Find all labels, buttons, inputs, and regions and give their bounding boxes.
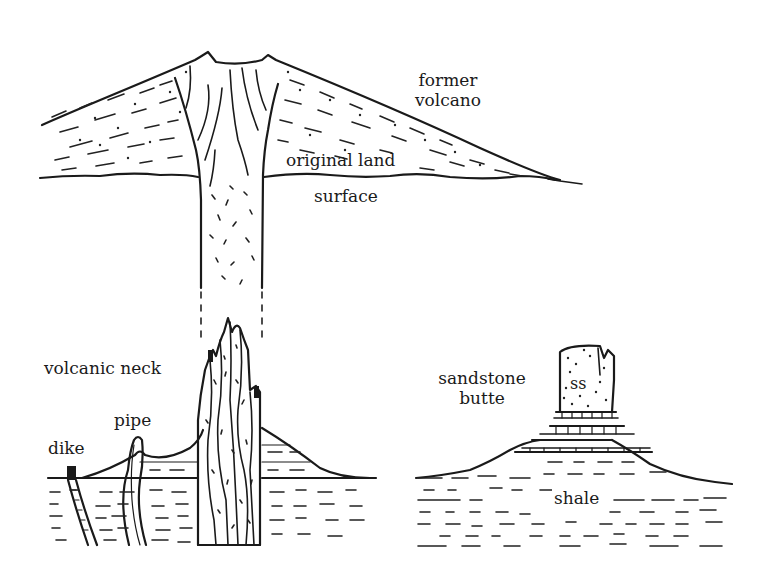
label-sandstone-butte: sandstone butte <box>432 368 532 408</box>
label-sandstone: sandstone <box>432 368 532 388</box>
volcanic-neck-panel <box>48 318 376 545</box>
label-butte: butte <box>432 388 532 408</box>
label-original-land: original land <box>286 150 395 170</box>
label-volcanic-neck: volcanic neck <box>44 358 161 378</box>
label-dike: dike <box>48 438 85 458</box>
label-former-volcano: former volcano <box>408 70 488 110</box>
label-shale: shale <box>552 488 601 508</box>
label-ss: ss <box>570 374 586 394</box>
label-former: former <box>408 70 488 90</box>
cone-ash-layers-left <box>52 71 187 170</box>
label-surface: surface <box>314 186 378 206</box>
label-volcano: volcano <box>408 90 488 110</box>
sandstone-butte-panel <box>416 346 732 484</box>
geology-diagram <box>0 0 767 578</box>
label-pipe: pipe <box>114 410 151 430</box>
neck-fill-speckles <box>210 186 254 284</box>
